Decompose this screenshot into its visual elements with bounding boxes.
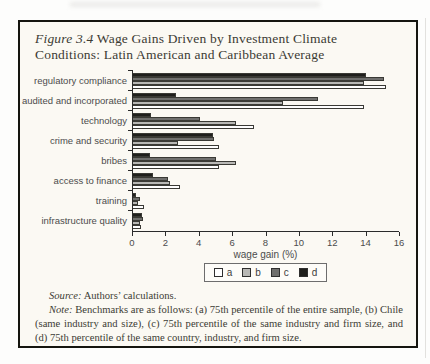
x-axis-tick (299, 232, 300, 236)
category-label: bribes (20, 151, 132, 171)
category-row: infrastructure quality (20, 211, 416, 231)
x-axis-tick-label: 8 (263, 237, 268, 248)
note-line: Note: Benchmarks are as follows: (a) 75t… (35, 303, 403, 345)
legend-item-b: b (242, 267, 261, 278)
x-axis: 0246810121416 (132, 231, 399, 249)
bar-a (133, 165, 219, 169)
category-row: regulatory compliance (20, 71, 416, 91)
x-axis-tick-label: 0 (129, 237, 134, 248)
chart-rows: regulatory complianceaudited and incorpo… (20, 71, 416, 231)
bar-group (132, 111, 399, 131)
category-label: audited and incorporated (20, 91, 132, 111)
scan-artifact-right-edge (425, 18, 426, 358)
x-axis-tick-label: 14 (360, 237, 371, 248)
x-axis-tick (366, 232, 367, 236)
legend-item-d: d (299, 267, 318, 278)
x-axis-tick-label: 16 (394, 237, 405, 248)
legend-row: abcd (132, 263, 399, 282)
note-text: Benchmarks are as follows: (a) 75th perc… (35, 304, 403, 343)
figure-title: Figure 3.4 Wage Gains Driven by Investme… (35, 31, 402, 64)
bar-a (133, 205, 144, 209)
legend-label-a: a (227, 267, 233, 278)
note-label: Note: (49, 304, 73, 315)
figure-box: Figure 3.4 Wage Gains Driven by Investme… (18, 20, 418, 348)
x-axis-tick (199, 232, 200, 236)
x-axis-tick (266, 232, 267, 236)
bar-a (133, 225, 141, 229)
bar-group (132, 151, 399, 171)
x-axis-label: wage gain (%) (132, 249, 399, 260)
figure-number: Figure 3.4 (35, 31, 94, 46)
footer-notes: Source: Authors’ calculations. Note: Ben… (35, 289, 403, 345)
bar-a (133, 105, 364, 109)
category-label: technology (20, 111, 132, 131)
bar-a (133, 125, 254, 129)
category-label: access to finance (20, 171, 132, 191)
source-label: Source: (49, 290, 82, 301)
y-axis-tick (128, 170, 133, 171)
bar-a (133, 185, 180, 189)
y-axis-tick (128, 70, 133, 71)
y-axis-tick (128, 90, 133, 91)
category-label: crime and security (20, 131, 132, 151)
bar-group (132, 131, 399, 151)
legend-swatch-c (271, 268, 280, 277)
legend-label-c: c (284, 267, 289, 278)
x-axis-tick (332, 232, 333, 236)
legend-swatch-a (214, 268, 223, 277)
scan-artifact-top (70, 2, 320, 7)
category-label: regulatory compliance (20, 71, 132, 91)
legend-item-c: c (271, 267, 289, 278)
y-axis-tick (128, 150, 133, 151)
source-text: Authors’ calculations. (82, 290, 177, 301)
x-axis-tick (399, 232, 400, 236)
category-row: crime and security (20, 131, 416, 151)
y-axis-tick (128, 130, 133, 131)
x-axis-tick-label: 6 (229, 237, 234, 248)
legend-swatch-b (242, 268, 251, 277)
bar-group (132, 191, 399, 211)
y-axis-tick (128, 190, 133, 191)
legend-swatch-d (299, 268, 308, 277)
legend: abcd (204, 263, 328, 282)
category-row: training (20, 191, 416, 211)
bar-group (132, 211, 399, 231)
legend-label-d: d (312, 267, 318, 278)
bar-group (132, 171, 399, 191)
x-axis-tick-label: 12 (327, 237, 338, 248)
x-axis-tick-label: 10 (294, 237, 305, 248)
bar-a (133, 145, 219, 149)
x-axis-tick-label: 2 (163, 237, 168, 248)
y-axis-tick (128, 110, 133, 111)
x-axis-tick (232, 232, 233, 236)
legend-label-b: b (255, 267, 261, 278)
category-row: audited and incorporated (20, 91, 416, 111)
category-label: infrastructure quality (20, 211, 132, 231)
x-axis-tick (165, 232, 166, 236)
x-axis-tick (132, 232, 133, 236)
bar-a (133, 85, 386, 89)
category-row: technology (20, 111, 416, 131)
bar-group (132, 91, 399, 111)
x-axis-tick-label: 4 (196, 237, 201, 248)
bar-chart: regulatory complianceaudited and incorpo… (20, 71, 416, 282)
category-row: bribes (20, 151, 416, 171)
y-axis-tick (128, 210, 133, 211)
legend-item-a: a (214, 267, 233, 278)
category-label: training (20, 191, 132, 211)
category-row: access to finance (20, 171, 416, 191)
bar-group (132, 71, 399, 91)
source-line: Source: Authors’ calculations. (35, 289, 403, 303)
